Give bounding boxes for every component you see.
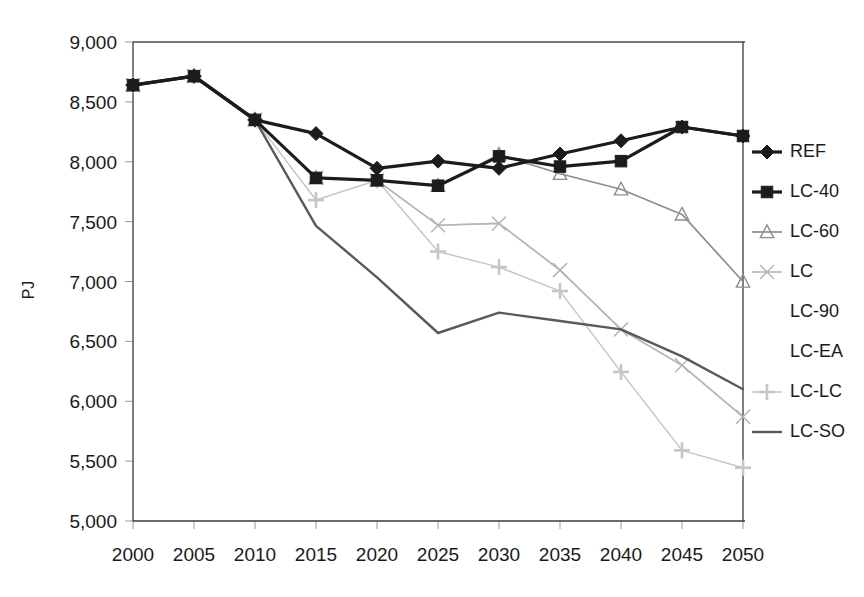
legend-label: LC — [790, 261, 813, 281]
x-tick-label: 2020 — [356, 544, 398, 565]
marker-plus — [613, 364, 629, 380]
legend-label: LC-60 — [790, 221, 839, 241]
legend-item-ref: REF — [752, 141, 826, 161]
series-lc-lc — [125, 68, 751, 476]
chart-legend: REFLC-40LC-60LCLC-90LC-EALC-LCLC-SO — [752, 141, 845, 441]
series-lc-40 — [127, 70, 748, 191]
y-tick-label: 8,500 — [69, 92, 117, 113]
marker-plus — [308, 192, 324, 208]
x-tick-label: 2010 — [234, 544, 276, 565]
legend-label: REF — [790, 141, 826, 161]
y-tick-label: 8,000 — [69, 152, 117, 173]
marker-square — [615, 155, 626, 166]
line-chart: 9,0008,5008,0007,5007,0006,5006,0005,500… — [0, 0, 864, 597]
legend-label: LC-EA — [790, 341, 843, 361]
marker-square — [676, 121, 687, 132]
marker-plus — [735, 460, 751, 476]
grid-layer — [125, 42, 743, 529]
marker-diamond — [553, 147, 567, 161]
marker-plus — [552, 283, 568, 299]
x-tick-labels: 2000200520102015202020252030203520402045… — [112, 544, 764, 565]
marker-diamond — [492, 161, 506, 175]
marker-diamond — [614, 134, 628, 148]
x-tick-label: 2030 — [478, 544, 520, 565]
legend-label: LC-SO — [790, 421, 845, 441]
legend-item-lc-90: LC-90 — [790, 301, 839, 321]
marker-square — [188, 70, 199, 81]
x-tick-label: 2035 — [539, 544, 581, 565]
series-line — [133, 76, 743, 389]
y-tick-label: 6,500 — [69, 331, 117, 352]
y-tick-label: 7,500 — [69, 212, 117, 233]
series-layer — [125, 68, 751, 476]
series-ref — [126, 69, 750, 175]
y-axis-title-text: PJ — [20, 281, 37, 300]
legend-item-lc-so: LC-SO — [752, 421, 845, 441]
y-tick-label: 5,000 — [69, 511, 117, 532]
x-tick-label: 2045 — [661, 544, 703, 565]
legend-label: LC-90 — [790, 301, 839, 321]
y-tick-label: 9,000 — [69, 32, 117, 53]
legend-item-lc-40: LC-40 — [752, 181, 839, 201]
y-tick-label: 6,000 — [69, 391, 117, 412]
marker-square — [737, 130, 748, 141]
legend-item-lc: LC — [752, 261, 813, 281]
y-axis-title: PJ — [20, 281, 37, 300]
marker-plus — [759, 384, 775, 400]
y-tick-label: 7,000 — [69, 272, 117, 293]
y-tick-labels: 9,0008,5008,0007,5007,0006,5006,0005,500… — [69, 32, 117, 532]
marker-diamond — [370, 161, 384, 175]
marker-square — [432, 180, 443, 191]
marker-diamond — [760, 145, 774, 159]
marker-diamond — [431, 154, 445, 168]
marker-square — [554, 161, 565, 172]
marker-square — [761, 186, 772, 197]
marker-x — [675, 358, 689, 372]
x-tick-label: 2005 — [173, 544, 215, 565]
chart-container: 9,0008,5008,0007,5007,0006,5006,0005,500… — [0, 0, 864, 597]
marker-square — [371, 175, 382, 186]
marker-square — [493, 151, 504, 162]
x-tick-label: 2025 — [417, 544, 459, 565]
marker-square — [310, 172, 321, 183]
legend-label: LC-40 — [790, 181, 839, 201]
series-line — [133, 76, 743, 186]
legend-label: LC-LC — [790, 381, 842, 401]
marker-square — [249, 114, 260, 125]
axis-layer — [133, 42, 745, 521]
x-tick-label: 2050 — [722, 544, 764, 565]
marker-plus — [674, 442, 690, 458]
x-tick-label: 2015 — [295, 544, 337, 565]
legend-item-lc-ea: LC-EA — [790, 341, 843, 361]
marker-plus — [491, 259, 507, 275]
series-lc-so — [133, 76, 743, 389]
y-tick-label: 5,500 — [69, 451, 117, 472]
x-tick-label: 2000 — [112, 544, 154, 565]
marker-square — [127, 79, 138, 90]
marker-x — [553, 263, 567, 277]
marker-diamond — [309, 127, 323, 141]
x-tick-label: 2040 — [600, 544, 642, 565]
legend-item-lc-60: LC-60 — [752, 221, 839, 241]
legend-item-lc-lc: LC-LC — [752, 381, 842, 401]
